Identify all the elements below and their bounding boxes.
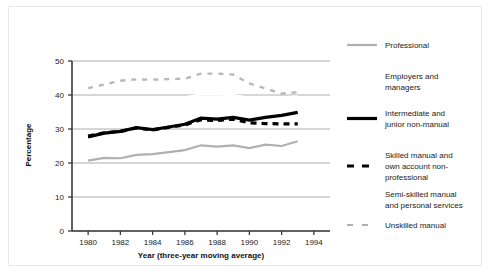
chart-figure: 19801982198419861988199019921994 0102030… xyxy=(0,0,490,275)
y-tick-label-0: 0 xyxy=(60,227,65,236)
legend-label-intermediate-and-junior-non-manual: Intermediate andjunior non-manual xyxy=(384,109,449,129)
percentage-by-social-class-line-chart: 19801982198419861988199019921994 0102030… xyxy=(0,0,490,275)
legend-label-semi-skilled-manual-and-personal-services: Semi-skilled manualand personal services xyxy=(385,190,463,210)
y-tick-label-30: 30 xyxy=(55,125,64,134)
x-tick-label-1982: 1982 xyxy=(111,238,129,247)
x-tick-group: 19801982198419861988199019921994 xyxy=(79,231,323,247)
legend-label-unskilled-manual: Unskilled manual xyxy=(385,221,446,230)
y-tick-group: 01020304050 xyxy=(55,57,72,236)
y-tick-label-40: 40 xyxy=(55,91,64,100)
legend-label-professional: Professional xyxy=(385,41,429,50)
series-line-unskilled-manual xyxy=(88,74,298,94)
x-tick-label-1986: 1986 xyxy=(176,238,194,247)
legend-label-skilled-manual-and-own-account-non-professional: Skilled manual andown account non-profes… xyxy=(385,151,453,182)
y-tick-label-20: 20 xyxy=(55,159,64,168)
legend: ProfessionalEmployers andmanagersInterme… xyxy=(347,41,463,230)
x-tick-label-1994: 1994 xyxy=(305,238,323,247)
x-tick-label-1984: 1984 xyxy=(144,238,162,247)
series-line-professional xyxy=(88,141,298,160)
x-tick-label-1990: 1990 xyxy=(240,238,258,247)
x-tick-label-1988: 1988 xyxy=(208,238,226,247)
legend-label-employers-and-managers: Employers andmanagers xyxy=(385,72,438,92)
y-tick-label-50: 50 xyxy=(55,57,64,66)
data-series-group xyxy=(88,74,298,161)
y-tick-label-10: 10 xyxy=(55,193,64,202)
x-tick-label-1980: 1980 xyxy=(79,238,97,247)
y-axis-title: Percentage xyxy=(24,123,33,167)
x-axis-title: Year (three-year moving average) xyxy=(138,251,265,260)
x-tick-label-1992: 1992 xyxy=(273,238,291,247)
